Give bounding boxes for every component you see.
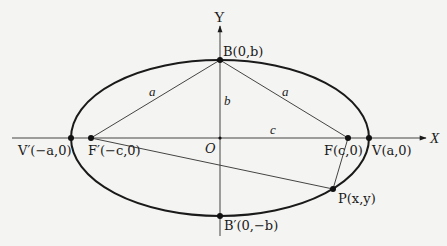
label-b-prime: B′(0,−b) — [224, 218, 278, 233]
segment-b-fprime — [91, 60, 220, 138]
label-v-prime: V′(−a,0) — [17, 143, 72, 158]
point-origin — [218, 136, 221, 139]
label-f: F(c,0) — [324, 143, 363, 158]
y-axis-label: Y — [214, 9, 225, 25]
label-f-prime: F′(−c,0) — [88, 143, 141, 158]
ellipse-diagram: X Y B(0,b) B′(0,−b) V(a,0) V′(−a,0) F(c,… — [0, 0, 447, 246]
label-v: V(a,0) — [371, 143, 412, 158]
segment-label-right-a: a — [282, 84, 289, 99]
point-v-prime — [68, 135, 74, 141]
segment-label-left-a: a — [149, 84, 156, 99]
segment-b-f — [220, 60, 348, 138]
label-origin: O — [205, 141, 216, 156]
x-axis-label: X — [429, 130, 440, 146]
point-b-prime — [217, 213, 223, 219]
point-p — [330, 186, 336, 192]
segment-label-c: c — [270, 122, 276, 137]
point-f-prime — [88, 135, 94, 141]
point-v — [366, 135, 372, 141]
label-b: B(0,b) — [223, 44, 263, 59]
label-p: P(x,y) — [338, 191, 376, 206]
segment-label-b: b — [224, 93, 231, 108]
point-f — [345, 135, 351, 141]
